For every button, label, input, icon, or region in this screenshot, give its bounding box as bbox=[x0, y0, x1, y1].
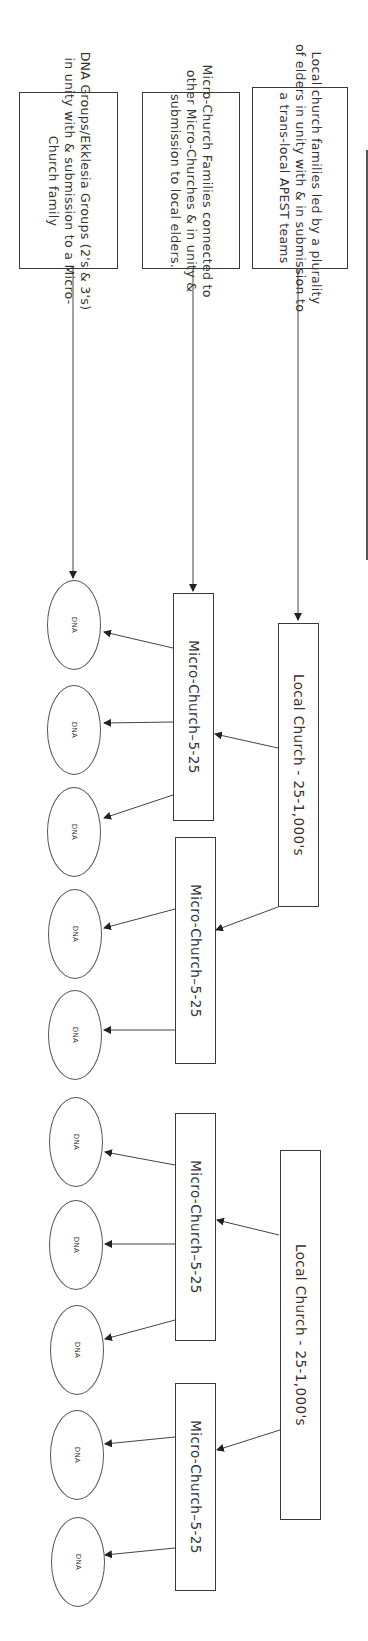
legend-line: Local church families led by a plurality bbox=[308, 44, 324, 312]
micro-church-label: Micro-Church–5-25 bbox=[186, 640, 202, 773]
local-church-node: Local Church - 25-1,000's bbox=[278, 623, 319, 907]
micro-church-label: Micro-Church–5-25 bbox=[188, 1160, 204, 1293]
legend-line: Micro-Church Families connected to bbox=[199, 64, 215, 297]
dna-group-node: DNA bbox=[47, 685, 101, 775]
legend-line: of elders in unity with & in submission … bbox=[292, 44, 308, 312]
dna-label: DNA bbox=[72, 1134, 80, 1150]
legend-text-local-church: Local church families led by a plurality… bbox=[276, 44, 324, 312]
local-church-node: Local Church - 25-1,000's bbox=[280, 1150, 321, 1520]
legend-line: Church family bbox=[45, 51, 61, 310]
dna-label: DNA bbox=[73, 1342, 81, 1358]
legend-text-micro-church: Micro-Church Families connected to other… bbox=[167, 64, 215, 297]
micro-church-node: Micro-Church–5-25 bbox=[175, 1113, 216, 1341]
dna-group-node: DNA bbox=[50, 1410, 104, 1500]
dna-group-node: DNA bbox=[47, 580, 101, 670]
dna-group-node: DNA bbox=[49, 1097, 103, 1187]
dna-group-node: DNA bbox=[48, 889, 102, 979]
micro-church-node: Micro-Church–5-25 bbox=[175, 1383, 216, 1591]
dna-group-node: DNA bbox=[50, 1305, 104, 1395]
dna-label: DNA bbox=[72, 1237, 80, 1253]
dna-group-node: DNA bbox=[47, 787, 101, 877]
dna-group-node: DNA bbox=[48, 990, 102, 1080]
dna-label: DNA bbox=[71, 1027, 79, 1043]
micro-church-node: Micro-Church–5-25 bbox=[173, 593, 214, 821]
local-church-label: Local Church - 25-1,000's bbox=[291, 674, 307, 856]
dna-label: DNA bbox=[70, 824, 78, 840]
dna-label: DNA bbox=[74, 1554, 82, 1570]
local-church-label: Local Church - 25-1,000's bbox=[293, 1244, 309, 1426]
dna-label: DNA bbox=[70, 617, 78, 633]
dna-label: DNA bbox=[73, 1447, 81, 1463]
legend-text-dna: DNA Groups/Ekklesia Groups (2's & 3's) i… bbox=[45, 51, 93, 310]
legend-line: other Micro-Churches & in unity & bbox=[183, 64, 199, 297]
dna-label: DNA bbox=[71, 926, 79, 942]
legend-line: a trans-local APEST teams bbox=[276, 44, 292, 312]
legend-box-dna: DNA Groups/Ekklesia Groups (2's & 3's) i… bbox=[19, 92, 118, 269]
legend-line: DNA Groups/Ekklesia Groups (2's & 3's) bbox=[77, 51, 93, 310]
dna-group-node: DNA bbox=[49, 1200, 103, 1290]
legend-box-micro-church: Micro-Church Families connected to other… bbox=[142, 92, 240, 269]
dna-group-node: DNA bbox=[51, 1517, 105, 1607]
micro-church-node: Micro-Church–5-25 bbox=[175, 837, 216, 1064]
legend-line: in unity with & submission to a Micro- bbox=[61, 51, 77, 310]
legend-line: submission to local elders. bbox=[167, 64, 183, 297]
legend-box-local-church: Local church families led by a plurality… bbox=[252, 87, 348, 269]
micro-church-label: Micro-Church–5-25 bbox=[188, 884, 204, 1017]
dna-label: DNA bbox=[70, 722, 78, 738]
micro-church-label: Micro-Church–5-25 bbox=[188, 1420, 204, 1553]
